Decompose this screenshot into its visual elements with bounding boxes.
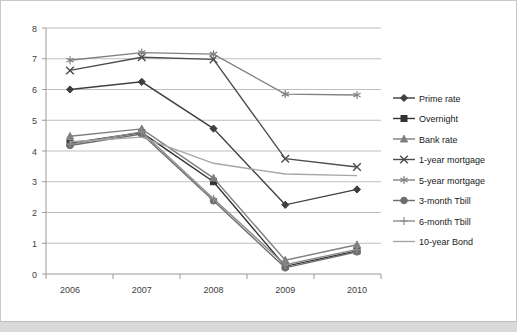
series-prime-rate xyxy=(66,78,360,208)
legend-item-3-month-tbill[interactable]: 3-month Tbill xyxy=(393,196,471,206)
y-tick-label: 5 xyxy=(32,116,37,126)
series-line xyxy=(70,129,357,260)
series-bank-rate xyxy=(66,125,360,263)
marker-diamond xyxy=(66,86,73,93)
legend-item-prime-rate[interactable]: Prime rate xyxy=(393,94,461,104)
y-tick-label: 0 xyxy=(32,270,37,280)
y-tick-label: 2 xyxy=(32,208,37,218)
marker-triangle xyxy=(210,174,217,181)
legend-label: Bank rate xyxy=(419,135,458,145)
y-axis-gridlines: 012345678 xyxy=(32,24,381,280)
legend-label: 1-year mortgage xyxy=(419,155,485,165)
plus-marker xyxy=(400,217,408,225)
x-axis: 20062007200820092010 xyxy=(46,274,381,295)
legend-label: Prime rate xyxy=(419,94,461,104)
series-10-year-bond xyxy=(70,137,357,175)
x-tick-label: 2010 xyxy=(347,285,367,295)
x-tick-label: 2006 xyxy=(60,285,80,295)
diamond-marker xyxy=(138,78,145,85)
legend-item-1-year-mortgage[interactable]: 1-year mortgage xyxy=(393,155,485,165)
legend-item-5-year-mortgage[interactable]: 5-year mortgage xyxy=(393,176,485,186)
marker-diamond xyxy=(138,78,145,85)
y-tick-label: 4 xyxy=(32,147,37,157)
legend: Prime rateOvernightBank rate1-year mortg… xyxy=(393,94,485,248)
series-line xyxy=(70,137,357,175)
legend-label: 3-month Tbill xyxy=(419,196,471,206)
legend-item-10-year-bond[interactable]: 10-year Bond xyxy=(393,237,473,247)
x-tick-label: 2008 xyxy=(203,285,223,295)
legend-item-bank-rate[interactable]: Bank rate xyxy=(393,135,458,145)
legend-label: 5-year mortgage xyxy=(419,176,485,186)
y-tick-label: 7 xyxy=(32,54,37,64)
legend-item-overnight[interactable]: Overnight xyxy=(393,114,459,124)
legend-label: Overnight xyxy=(419,114,459,124)
legend-label: 6-month Tbill xyxy=(419,217,471,227)
marker-square xyxy=(401,116,407,122)
diamond-marker xyxy=(66,86,73,93)
marker-diamond xyxy=(400,94,407,101)
legend-label: 10-year Bond xyxy=(419,237,473,247)
diamond-marker xyxy=(353,186,360,193)
x-tick-label: 2007 xyxy=(132,285,152,295)
circle-marker xyxy=(401,197,408,204)
marker-circle xyxy=(401,197,408,204)
marker-diamond xyxy=(353,186,360,193)
y-tick-label: 6 xyxy=(32,85,37,95)
series-1-year-mortgage xyxy=(66,53,361,170)
y-tick-label: 1 xyxy=(32,239,37,249)
window-bottom-strip xyxy=(0,321,517,332)
chart-container: 01234567820062007200820092010Prime rateO… xyxy=(0,0,517,332)
y-tick-label: 8 xyxy=(32,24,37,34)
square-marker xyxy=(401,116,407,122)
series-5-year-mortgage xyxy=(66,49,360,99)
series-line xyxy=(70,82,357,205)
triangle-marker xyxy=(210,174,217,181)
line-chart: 01234567820062007200820092010Prime rateO… xyxy=(1,1,516,331)
legend-item-6-month-tbill[interactable]: 6-month Tbill xyxy=(393,217,471,227)
y-tick-label: 3 xyxy=(32,177,37,187)
marker-plus xyxy=(400,217,408,225)
diamond-marker xyxy=(400,94,407,101)
x-tick-label: 2009 xyxy=(275,285,295,295)
